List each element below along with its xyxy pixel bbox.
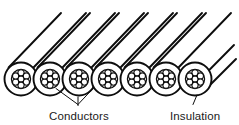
strand-sw-7	[187, 79, 193, 85]
conductor-bundle-1	[5, 63, 38, 96]
jacket-line-10	[150, 13, 203, 68]
jacket-line-3	[38, 13, 90, 68]
strand-nw-7	[187, 73, 193, 79]
jacket-line-9	[125, 13, 177, 68]
strand-ne-3	[81, 73, 87, 79]
strand-nw-1	[13, 73, 19, 79]
jacket-line-6	[92, 13, 145, 68]
strand-sw-2	[42, 79, 48, 85]
jacket-line-8	[121, 13, 174, 68]
strand-ne-5	[139, 73, 145, 79]
strand-sw-6	[158, 79, 164, 85]
strand-sw-1	[13, 79, 19, 85]
jacket-line-7	[96, 13, 148, 68]
jacket-line-11	[154, 13, 206, 68]
jacket-line-12	[179, 13, 232, 68]
strand-ne-7	[197, 73, 203, 79]
jacket-line-14	[210, 59, 237, 86]
strand-nw-2	[42, 73, 48, 79]
strand-nw-5	[129, 73, 135, 79]
jacket-line-1	[9, 13, 61, 68]
jacket-line-2	[34, 13, 87, 68]
strand-sw-4	[100, 79, 106, 85]
strand-ne-4	[110, 73, 116, 79]
conductors-label: Conductors	[49, 110, 109, 122]
strand-sw-5	[129, 79, 135, 85]
strand-ne-1	[23, 73, 29, 79]
jacket-line-4	[63, 13, 116, 68]
cable-cross-section-figure: Conductors Insulation	[0, 0, 239, 125]
jacket-line-13	[207, 45, 234, 73]
cable-diagram-canvas: Conductors Insulation	[0, 0, 239, 125]
strand-ne-2	[52, 73, 58, 79]
conductor-bundle-7	[179, 63, 212, 96]
strand-nw-4	[100, 73, 106, 79]
conductor-bundles	[5, 63, 212, 96]
insulation-label: Insulation	[170, 110, 220, 122]
jacket-line-5	[67, 13, 119, 68]
strand-nw-3	[71, 73, 77, 79]
strand-ne-6	[168, 73, 174, 79]
strand-nw-6	[158, 73, 164, 79]
strand-sw-3	[71, 79, 77, 85]
conductor-bundle-2	[34, 63, 67, 96]
